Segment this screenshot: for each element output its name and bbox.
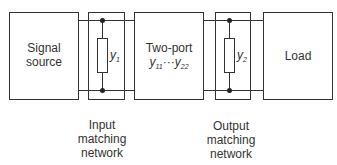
two-port-title: Two-port [134,41,204,55]
signal-source-line2: source [9,55,79,69]
junction-dot [100,88,105,93]
y2-label: y2 [237,48,247,63]
caption-line: network [71,146,133,160]
load-text: Load [263,49,333,63]
signal-source-line1: Signal [9,41,79,55]
two-port-params: y11···y22 [134,55,204,74]
ellipsis: ··· [163,55,175,69]
diagram-canvas [0,0,337,165]
caption-line: matching [200,133,262,147]
junction-dot [227,18,232,23]
y2-element [225,39,235,73]
param-sub: 11 [155,63,162,70]
caption-line: Input [71,118,133,132]
param-sub: 22 [181,63,189,70]
subscript: 1 [116,56,120,63]
two-port-label: Two-port y11···y22 [134,41,204,74]
junction-dot [227,88,232,93]
y1-element [98,39,108,73]
signal-source-label: Signal source [9,41,79,69]
y1-label: y1 [110,48,120,63]
caption-line: network [200,147,262,161]
caption-line: matching [71,132,133,146]
output-matching-caption: Output matching network [200,119,262,161]
input-matching-caption: Input matching network [71,118,133,160]
junction-dot [100,18,105,23]
subscript: 2 [243,56,247,63]
load-label: Load [263,49,333,63]
caption-line: Output [200,119,262,133]
